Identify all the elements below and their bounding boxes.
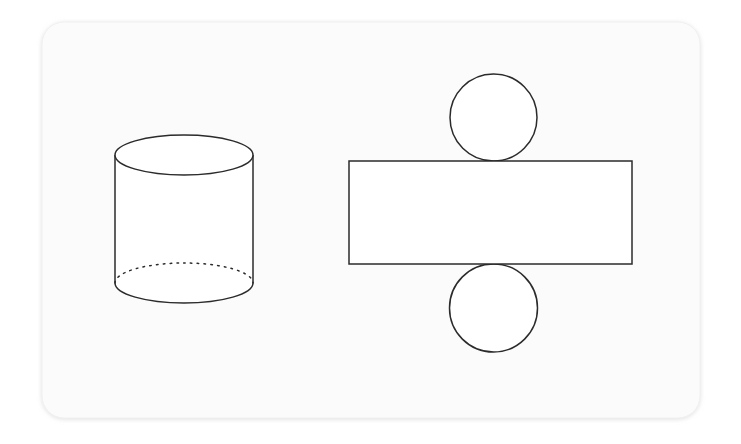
cylinder-top-ellipse	[115, 135, 253, 175]
net-circle-bottom	[450, 264, 538, 352]
figure-stage	[0, 0, 741, 444]
net-circle-top	[450, 74, 537, 161]
cylinder	[115, 135, 253, 303]
net-rectangle	[349, 161, 632, 264]
geometry-figure-svg	[0, 0, 741, 444]
